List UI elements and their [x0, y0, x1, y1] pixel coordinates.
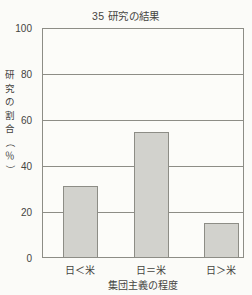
chart-figure: 35 研究の結果 研 究 の 割 合 （ ％ ） 100 80 60 40 20…: [0, 0, 252, 295]
bar: [134, 132, 169, 257]
plot-area: [42, 28, 244, 258]
y-tick-label: 20: [21, 207, 32, 218]
y-tick-label: 60: [21, 115, 32, 126]
x-tick-label: 日＜米: [65, 262, 95, 277]
y-axis-tick-labels: 100 80 60 40 20 0: [0, 0, 40, 295]
x-tick-label: 日＞米: [206, 262, 236, 277]
gridline-80: [43, 74, 243, 75]
bar: [63, 186, 98, 257]
y-tick-label: 0: [26, 253, 32, 264]
bar: [204, 223, 239, 257]
y-tick-label: 100: [15, 23, 32, 34]
gridline-60: [43, 120, 243, 121]
y-tick-label: 40: [21, 161, 32, 172]
x-axis-title: 集団主義の程度: [42, 277, 244, 292]
y-tick-label: 80: [21, 69, 32, 80]
x-tick-label: 日＝米: [136, 262, 166, 277]
